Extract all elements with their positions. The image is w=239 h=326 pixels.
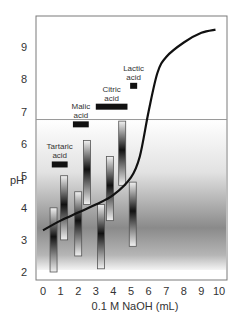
acid-label: acid <box>73 111 88 120</box>
y-tick-label: 7 <box>21 106 27 118</box>
ph-range-bar <box>106 156 113 220</box>
acid-range-marker <box>73 121 89 127</box>
acid-label: Lactic <box>123 64 144 73</box>
y-tick-label: 6 <box>21 138 27 150</box>
acid-label: acid <box>104 94 119 103</box>
acid-label: Citric <box>103 85 121 94</box>
ph-range-bar <box>129 182 136 246</box>
titration-chart: TartaricacidMalicacidCitricacidLacticaci… <box>0 0 239 326</box>
y-tick-label: 8 <box>21 73 27 85</box>
ph-range-bar <box>75 192 82 256</box>
x-axis-ticks: 012345678910 <box>40 285 225 297</box>
x-tick-label: 2 <box>75 285 81 297</box>
acid-label: acid <box>126 73 141 82</box>
acid-range-marker <box>52 161 68 167</box>
x-tick-label: 3 <box>93 285 99 297</box>
acid-label: Malic <box>72 102 91 111</box>
y-axis-ticks: 23456789 <box>21 41 27 278</box>
x-tick-label: 7 <box>163 285 169 297</box>
y-tick-label: 9 <box>21 41 27 53</box>
ph-range-bar <box>84 140 91 204</box>
x-tick-label: 0 <box>40 285 46 297</box>
acid-range-marker <box>130 83 137 89</box>
ph-range-bar <box>50 208 57 272</box>
acid-range-marker <box>96 104 128 110</box>
ph-range-bar <box>98 205 105 269</box>
ph-range-bar <box>119 121 126 185</box>
x-tick-label: 1 <box>58 285 64 297</box>
x-tick-label: 10 <box>213 285 225 297</box>
x-tick-label: 6 <box>146 285 152 297</box>
x-axis-label: 0.1 M NaOH (mL) <box>92 300 179 312</box>
ph-range-bar <box>61 176 68 240</box>
x-tick-label: 5 <box>128 285 134 297</box>
x-tick-label: 8 <box>181 285 187 297</box>
y-tick-label: 4 <box>21 202 27 214</box>
acid-label: acid <box>52 151 67 160</box>
y-tick-label: 2 <box>21 266 27 278</box>
x-tick-label: 4 <box>110 285 116 297</box>
y-tick-label: 3 <box>21 234 27 246</box>
acid-label: Tartaric <box>47 142 73 151</box>
y-axis-label: pH <box>10 174 24 186</box>
x-tick-label: 9 <box>198 285 204 297</box>
